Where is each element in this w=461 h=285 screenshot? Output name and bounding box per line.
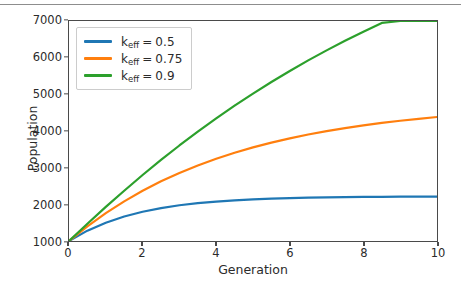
y-tick-label: 4000 [0, 124, 62, 138]
legend-item-label: keff=0.9 [121, 69, 175, 83]
legend-item-label: keff=0.5 [121, 35, 175, 49]
y-tick-label: 7000 [0, 13, 62, 27]
x-tick-label: 4 [196, 246, 236, 260]
legend-item-label: keff=0.75 [121, 52, 182, 66]
y-tick-label: 3000 [0, 161, 62, 175]
x-tick-mark [215, 242, 216, 246]
x-tick-mark [67, 242, 68, 246]
x-tick-label: 6 [270, 246, 310, 260]
legend-item-1[interactable]: keff=0.5 [84, 33, 182, 50]
x-tick-mark [363, 242, 364, 246]
legend-item-3[interactable]: keff=0.9 [84, 67, 182, 84]
x-tick-label: 8 [344, 246, 384, 260]
x-tick-mark [289, 242, 290, 246]
y-tick-label: 5000 [0, 87, 62, 101]
legend-swatch-icon [84, 40, 112, 43]
series-line-1 [69, 197, 437, 241]
x-tick-mark [437, 242, 438, 246]
x-tick-label: 2 [122, 246, 162, 260]
x-tick-label: 10 [418, 246, 458, 260]
x-tick-mark [141, 242, 142, 246]
y-tick-label: 2000 [0, 198, 62, 212]
chart-figure: Population 1000200030004000500060007000 … [0, 5, 461, 280]
legend-swatch-icon [84, 57, 112, 60]
chart-legend: keff=0.5keff=0.75keff=0.9 [76, 27, 192, 90]
x-tick-label: 0 [48, 246, 88, 260]
x-axis-label: Generation [68, 262, 438, 277]
figure-page: Population 1000200030004000500060007000 … [0, 0, 461, 285]
series-line-2 [69, 117, 437, 241]
legend-swatch-icon [84, 74, 112, 77]
y-tick-label: 6000 [0, 50, 62, 64]
y-axis-label: Population [25, 59, 40, 219]
legend-item-2[interactable]: keff=0.75 [84, 50, 182, 67]
